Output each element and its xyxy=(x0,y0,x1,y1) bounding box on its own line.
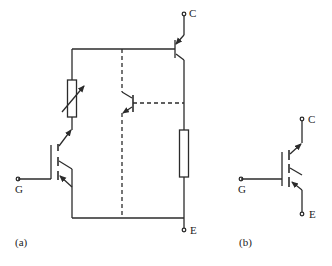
b-emitter-terminal xyxy=(300,212,304,216)
input-mosfet-icon xyxy=(18,128,72,218)
parasitic-transistor-icon xyxy=(122,49,184,218)
b-caption: (b) xyxy=(239,237,252,248)
b-emitter-label: E xyxy=(309,209,316,220)
main-transistor-icon xyxy=(175,16,184,130)
a-gate-label: G xyxy=(15,184,23,195)
b-gate-label: G xyxy=(238,184,246,195)
figure-b-igbt-symbol-icon xyxy=(239,117,304,216)
collector-terminal xyxy=(182,12,186,16)
a-collector-label: C xyxy=(189,8,196,19)
a-caption: (a) xyxy=(15,237,27,248)
b-collector-label: C xyxy=(308,114,315,125)
igbt-equivalent-circuit-diagram xyxy=(0,0,332,266)
emitter-resistor-icon xyxy=(180,130,189,177)
a-emitter-label: E xyxy=(190,225,197,236)
figure-a xyxy=(16,12,188,232)
b-collector-terminal xyxy=(300,117,304,121)
variable-resistor-icon xyxy=(62,80,84,117)
emitter-terminal xyxy=(182,228,186,232)
